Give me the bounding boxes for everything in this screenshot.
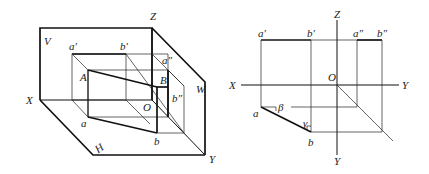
v-plane	[40, 28, 152, 100]
orthographic-view: Z a′ b′ a″ b″ O X Y β a γ b Y	[228, 8, 410, 167]
label-B: B	[160, 74, 167, 86]
label-y: Y	[209, 153, 217, 165]
label-b: b	[154, 135, 160, 147]
label-b-prime: b′	[307, 27, 316, 39]
label-y-right: Y	[402, 79, 410, 91]
label-h-plane: H	[91, 140, 106, 156]
label-a-double-prime: a″	[162, 54, 173, 66]
pictorial-view: Z V a′ b′ a″ A B W b″ X O a b H Y	[25, 10, 217, 165]
label-w-plane: W	[196, 83, 206, 95]
proj-line-a-bottom	[72, 100, 88, 117]
label-a: a	[253, 107, 259, 119]
label-x: X	[228, 79, 237, 91]
label-b-prime: b′	[120, 40, 129, 52]
line-ab	[88, 117, 157, 133]
label-o: O	[328, 71, 336, 83]
label-a-prime: a′	[258, 27, 267, 39]
box-back	[88, 70, 168, 117]
label-v-plane: V	[44, 35, 52, 47]
w-diag-b	[168, 70, 184, 86]
label-x: X	[25, 94, 34, 106]
line-AB	[88, 70, 157, 87]
label-b: b	[308, 136, 314, 148]
label-b-double-prime: b″	[172, 92, 183, 104]
proj-line-a	[72, 54, 88, 70]
label-a-double-prime: a″	[353, 27, 364, 39]
label-beta: β	[277, 101, 284, 113]
label-z: Z	[334, 8, 341, 20]
label-a: a	[81, 117, 87, 129]
label-o: O	[143, 101, 151, 113]
label-y-down: Y	[334, 155, 342, 167]
45deg-line	[337, 85, 393, 141]
projection-diagram: Z V a′ b′ a″ A B W b″ X O a b H Y	[0, 0, 429, 174]
label-a-prime: a′	[69, 40, 78, 52]
label-A: A	[79, 71, 87, 83]
y-axis-line	[152, 100, 205, 155]
label-b-double-prime: b″	[377, 27, 388, 39]
label-z: Z	[150, 10, 157, 22]
label-gamma: γ	[303, 117, 308, 129]
